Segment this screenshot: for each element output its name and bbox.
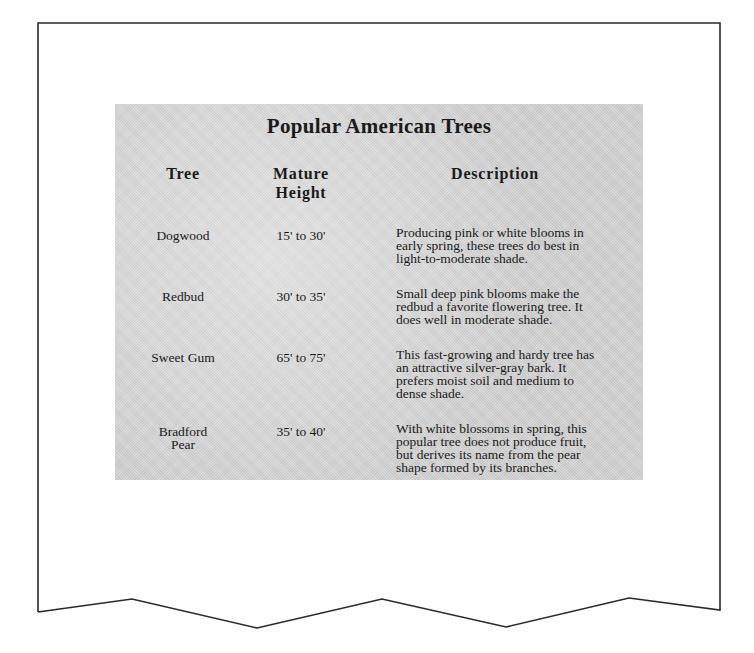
tree-name-line1: Redbud bbox=[133, 290, 233, 303]
description-line: does well in moderate shade. bbox=[396, 313, 636, 326]
description-line: shape formed by its branches. bbox=[396, 461, 636, 474]
height-cell: 35' to 40' bbox=[253, 425, 349, 438]
height-cell: 65' to 75' bbox=[253, 351, 349, 364]
column-header-tree: Tree bbox=[133, 164, 233, 183]
description-cell: With white blossoms in spring, this popu… bbox=[396, 422, 636, 474]
column-header-height-line2: Height bbox=[253, 183, 349, 202]
description-line: dense shade. bbox=[396, 387, 636, 400]
description-line: light-to-moderate shade. bbox=[396, 252, 636, 265]
column-header-description-label: Description bbox=[451, 165, 539, 182]
tree-name-cell: Dogwood bbox=[133, 229, 233, 242]
tree-name-cell: Sweet Gum bbox=[133, 351, 233, 364]
column-header-mature-height: Mature Height bbox=[253, 164, 349, 202]
column-header-height-line1: Mature bbox=[253, 164, 349, 183]
description-cell: Producing pink or white blooms in early … bbox=[396, 226, 636, 265]
description-cell: This fast-growing and hardy tree has an … bbox=[396, 348, 636, 400]
column-header-tree-label: Tree bbox=[166, 165, 200, 182]
column-header-description: Description bbox=[385, 164, 605, 183]
height-cell: 30' to 35' bbox=[253, 290, 349, 303]
height-cell: 15' to 30' bbox=[253, 229, 349, 242]
tree-name-cell: Redbud bbox=[133, 290, 233, 303]
tree-name-cell: Bradford Pear bbox=[133, 425, 233, 451]
tree-name-line2: Pear bbox=[133, 438, 233, 451]
description-cell: Small deep pink blooms make the redbud a… bbox=[396, 287, 636, 326]
trees-table-panel: Popular American Trees Tree Mature Heigh… bbox=[115, 104, 643, 480]
tree-name-line1: Sweet Gum bbox=[133, 351, 233, 364]
table-title: Popular American Trees bbox=[115, 114, 643, 139]
tree-name-line1: Dogwood bbox=[133, 229, 233, 242]
